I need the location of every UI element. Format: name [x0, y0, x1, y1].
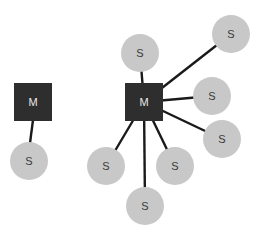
master-slave-diagram: M S S S S S S S S M — [0, 0, 266, 238]
slave-label: S — [208, 90, 215, 102]
master-node: M — [14, 83, 52, 121]
master-label: M — [139, 96, 148, 108]
slave-label: S — [218, 133, 225, 145]
slave-label: S — [141, 200, 148, 212]
slave-node: S — [193, 77, 231, 115]
slave-node: S — [10, 142, 48, 180]
slave-node: S — [121, 34, 159, 72]
slave-label: S — [25, 155, 32, 167]
slave-node: S — [87, 147, 125, 185]
edges-group-single — [30, 120, 33, 143]
edge — [30, 120, 33, 143]
slave-label: S — [171, 160, 178, 172]
slave-node: S — [212, 15, 250, 53]
slave-label: S — [136, 47, 143, 59]
slave-label: S — [227, 28, 234, 40]
slave-node: S — [156, 147, 194, 185]
slave-node: S — [126, 187, 164, 225]
slave-node: S — [203, 120, 241, 158]
slave-label: S — [102, 160, 109, 172]
master-label: M — [28, 96, 37, 108]
master-node: M — [125, 83, 163, 121]
